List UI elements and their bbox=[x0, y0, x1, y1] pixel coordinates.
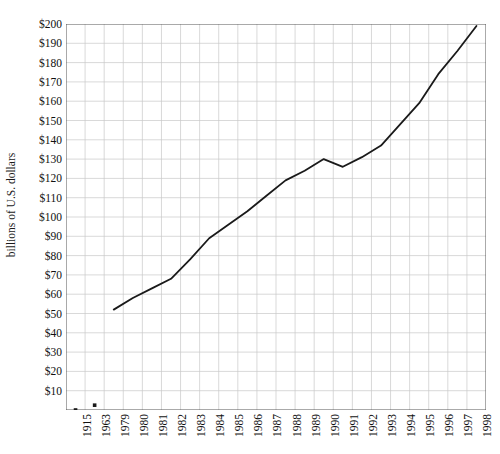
x-tick-label: 1986 bbox=[252, 414, 264, 437]
y-tick-label: $170 bbox=[39, 76, 62, 88]
y-tick-label: $110 bbox=[39, 192, 62, 204]
x-axis-tick-labels: 1915196319791980198119821983198419851986… bbox=[66, 412, 486, 454]
x-tick-label: 1984 bbox=[214, 414, 226, 437]
y-tick-label: $160 bbox=[39, 95, 62, 107]
x-tick-label: 1995 bbox=[424, 414, 436, 437]
y-tick-label: $70 bbox=[45, 269, 62, 281]
y-tick-label: $200 bbox=[39, 18, 62, 30]
line-chart: billions of U.S. dollars $10$20$30$40$50… bbox=[0, 0, 500, 454]
y-tick-label: $130 bbox=[39, 153, 62, 165]
y-tick-label: $80 bbox=[45, 250, 62, 262]
x-tick-label: 1994 bbox=[405, 414, 417, 437]
x-tick-label: 1980 bbox=[138, 414, 150, 437]
x-tick-label: 1987 bbox=[271, 414, 283, 437]
plot-svg bbox=[66, 24, 486, 410]
x-tick-label: 1963 bbox=[100, 414, 112, 437]
x-tick-label: 1993 bbox=[386, 414, 398, 437]
x-tick-label: 1991 bbox=[348, 414, 360, 437]
x-tick-label: 1981 bbox=[157, 414, 169, 437]
y-tick-label: $120 bbox=[39, 172, 62, 184]
x-tick-label: 1989 bbox=[310, 414, 322, 437]
x-tick-label: 1992 bbox=[367, 414, 379, 437]
x-tick-label: 1915 bbox=[81, 414, 93, 437]
x-tick-label: 1979 bbox=[119, 414, 131, 437]
plot-area bbox=[66, 24, 486, 410]
y-tick-label: $40 bbox=[45, 327, 62, 339]
x-tick-label: 1998 bbox=[481, 414, 493, 437]
x-tick-label: 1982 bbox=[176, 414, 188, 437]
x-tick-label: 1996 bbox=[443, 414, 455, 437]
x-tick-label: 1997 bbox=[462, 414, 474, 437]
y-axis-title-text: billions of U.S. dollars bbox=[5, 153, 17, 257]
x-tick-label: 1985 bbox=[233, 414, 245, 437]
y-tick-label: $30 bbox=[45, 346, 62, 358]
x-tick-label: 1990 bbox=[329, 414, 341, 437]
y-tick-label: $60 bbox=[45, 288, 62, 300]
data-point-marker bbox=[74, 408, 78, 410]
y-axis-title: billions of U.S. dollars bbox=[0, 0, 22, 410]
y-tick-label: $180 bbox=[39, 57, 62, 69]
x-tick-label: 1988 bbox=[291, 414, 303, 437]
y-tick-label: $10 bbox=[45, 385, 62, 397]
y-axis-tick-labels: $10$20$30$40$50$60$70$80$90$100$110$120$… bbox=[22, 0, 66, 415]
y-tick-label: $190 bbox=[39, 37, 62, 49]
y-tick-label: $90 bbox=[45, 230, 62, 242]
data-point-marker bbox=[93, 403, 97, 407]
y-tick-label: $140 bbox=[39, 134, 62, 146]
y-tick-label: $150 bbox=[39, 115, 62, 127]
x-tick-label: 1983 bbox=[195, 414, 207, 437]
gridlines bbox=[66, 24, 486, 410]
y-tick-label: $20 bbox=[45, 365, 62, 377]
y-tick-label: $50 bbox=[45, 308, 62, 320]
y-tick-label: $100 bbox=[39, 211, 62, 223]
